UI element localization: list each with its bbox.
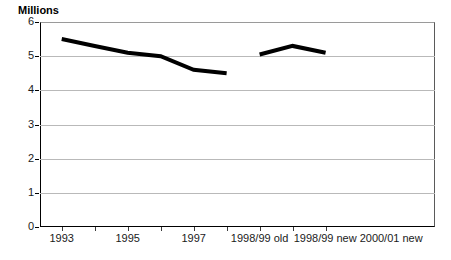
y-axis-tick-label: 6 (4, 16, 34, 27)
plot-area (40, 22, 435, 227)
y-axis-title: Millions (18, 4, 59, 16)
y-axis-tick-mark (35, 22, 39, 23)
y-axis-tick-mark (35, 56, 39, 57)
x-axis-tick-mark (128, 227, 129, 231)
y-axis-tick-mark (35, 125, 39, 126)
x-axis-tick-label: 1998/99 old (231, 232, 289, 244)
y-axis-tick-label: 4 (4, 84, 34, 95)
line-chart: Millions 6543210 1993199519971998/99 old… (0, 0, 451, 260)
x-axis-tick-label: 1998/99 new (294, 232, 357, 244)
x-axis-tick-mark (227, 227, 228, 231)
y-axis-tick-mark (35, 90, 39, 91)
x-axis-tick-mark (161, 227, 162, 231)
x-axis-tick-label: 1997 (181, 232, 205, 244)
y-axis-tick-label: 0 (4, 221, 34, 232)
y-axis-tick-label: 1 (4, 187, 34, 198)
x-axis-tick-label: 1993 (49, 232, 73, 244)
x-axis-tick-mark (62, 227, 63, 231)
y-axis-tick-label: 3 (4, 119, 34, 130)
x-axis-label-group: 1993199519971998/99 old1998/99 new2000/0… (40, 232, 435, 254)
y-axis-tick-mark (35, 193, 39, 194)
y-axis-tick-mark (35, 159, 39, 160)
x-axis-tick-label: 2000/01 new (360, 232, 423, 244)
series-line (62, 39, 227, 73)
series-layer (40, 22, 435, 227)
x-axis-tick-mark (95, 227, 96, 231)
x-axis-tick-label: 1995 (115, 232, 139, 244)
series-line (260, 46, 326, 55)
x-axis-tick-mark (293, 227, 294, 231)
y-axis-tick-label: 2 (4, 153, 34, 164)
y-axis-tick-mark (35, 227, 39, 228)
x-axis-tick-mark (326, 227, 327, 231)
x-axis-tick-mark (194, 227, 195, 231)
y-axis-label-group: 6543210 (0, 22, 34, 227)
x-axis-tick-mark (260, 227, 261, 231)
y-axis-tick-label: 5 (4, 50, 34, 61)
